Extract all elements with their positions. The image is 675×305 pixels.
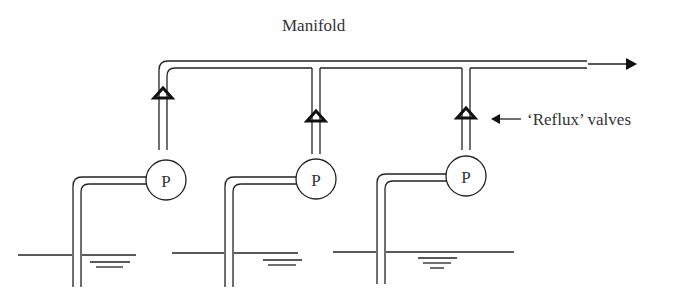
pump-2-label: P bbox=[311, 171, 320, 190]
outlet-arrow-icon bbox=[588, 58, 637, 70]
sump-1-water-level bbox=[18, 255, 136, 267]
manifold-label: Manifold bbox=[282, 16, 346, 35]
pump-manifold-diagram: Manifold ‘Reflux’ valves P bbox=[0, 0, 675, 305]
reflux-valve-2-icon bbox=[307, 111, 325, 121]
pump-1: P bbox=[73, 160, 186, 287]
pump-1-label: P bbox=[161, 172, 170, 191]
reflux-valve-3-icon bbox=[457, 108, 475, 118]
pump-3-label: P bbox=[461, 168, 470, 187]
valve-pointer-arrow-icon bbox=[491, 114, 521, 124]
reflux-valve-1-icon bbox=[154, 88, 172, 98]
pump-2: P bbox=[225, 159, 336, 287]
pump-3: P bbox=[377, 156, 486, 284]
sump-2-water-level bbox=[172, 253, 302, 265]
sump-3-water-level bbox=[333, 252, 514, 268]
manifold-pipe bbox=[159, 61, 587, 154]
reflux-valves-label: ‘Reflux’ valves bbox=[527, 110, 631, 129]
